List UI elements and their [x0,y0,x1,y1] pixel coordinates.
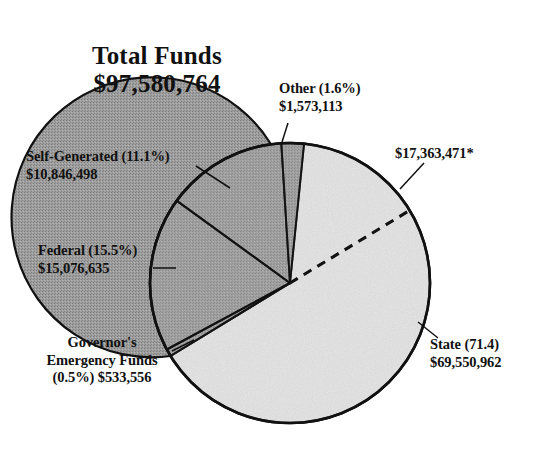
label-governors-line3: (0.5%) $533,556 [18,369,186,387]
label-federal-line2: $15,076,635 [38,260,137,278]
label-self-generated: Self-Generated (11.1%) $10,846,498 [26,148,170,183]
label-governors-line2: Emergency Funds [18,352,186,370]
label-other: Other (1.6%) $1,573,113 [279,80,361,115]
label-starred-amount: $17,363,471* [395,145,474,163]
chart-title: Total Funds $97,580,764 [52,42,262,98]
label-state-line2: $69,550,962 [430,354,501,372]
label-self-generated-line2: $10,846,498 [26,166,170,184]
label-federal: Federal (15.5%) $15,076,635 [38,242,137,277]
label-state: State (71.4) $69,550,962 [430,336,501,371]
chart-title-line1: Total Funds [52,42,262,70]
leader-line-starred [400,163,424,189]
label-other-line2: $1,573,113 [279,98,361,116]
label-federal-line1: Federal (15.5%) [38,242,137,258]
label-state-line1: State (71.4) [430,336,499,352]
label-self-generated-line1: Self-Generated (11.1%) [26,148,170,164]
label-other-line1: Other (1.6%) [279,80,361,96]
leader-line-other [282,123,288,142]
label-starred-amount-line1: $17,363,471* [395,145,474,161]
label-governors-line1: Governor's [67,334,136,350]
chart-title-line2: $97,580,764 [52,70,262,98]
label-governors-emergency-funds: Governor's Emergency Funds (0.5%) $533,5… [18,334,186,387]
